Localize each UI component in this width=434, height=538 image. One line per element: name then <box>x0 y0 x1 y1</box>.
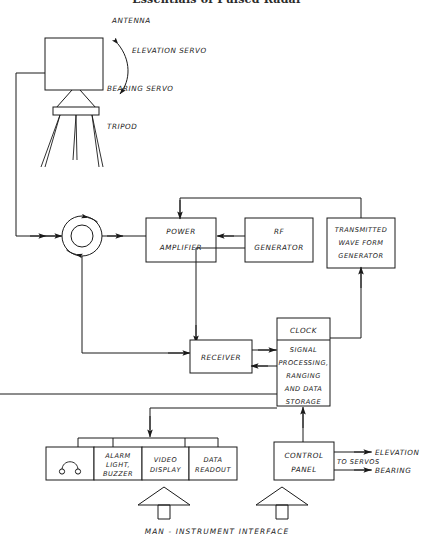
data-line2: READOUT <box>195 466 231 474</box>
link-sp-to-twfg <box>330 272 361 338</box>
cell-headphones[interactable] <box>46 447 94 480</box>
data-line1: DATA <box>203 456 222 464</box>
block-signal-processing-stack[interactable]: CLOCK SIGNAL PROCESSING, RANGING AND DAT… <box>277 318 330 406</box>
interface-caption: MAN - INSTRUMENT INTERFACE <box>145 527 290 536</box>
interface-arrow-up <box>256 487 308 519</box>
block-transmitted-wave-form-generator[interactable]: TRANSMITTED WAVE FORM GENERATOR <box>327 218 395 268</box>
label-elevation-out: ELEVATION <box>375 448 419 457</box>
sp-line2: PROCESSING, <box>278 359 328 367</box>
label-elevation-servo: ELEVATION SERVO <box>132 46 207 55</box>
power-amplifier-line1: POWER <box>166 227 195 236</box>
link-circulator-to-receiver <box>82 256 189 353</box>
block-power-amplifier[interactable]: POWER AMPLIFIER <box>146 218 216 262</box>
video-line1: VIDEO <box>154 456 177 464</box>
twfg-line3: GENERATOR <box>338 252 383 260</box>
cell-video-display[interactable] <box>142 447 189 480</box>
label-tripod: TRIPOD <box>107 122 137 131</box>
twfg-line1: TRANSMITTED <box>335 226 388 234</box>
antenna-assembly <box>41 38 128 167</box>
bearing-servo-plate <box>53 107 99 115</box>
waveguide-antenna-feed <box>16 73 61 236</box>
cell-data-readout[interactable] <box>189 447 237 480</box>
interface-arrow-down <box>138 487 190 519</box>
sp-line5: STORAGE <box>286 398 322 406</box>
radar-block-diagram: ANTENNA ELEVATION SERVO BEARING SERVO TR… <box>0 0 434 538</box>
receiver-line1: RECEIVER <box>201 353 241 362</box>
label-antenna: ANTENNA <box>111 16 151 25</box>
alarm-line2: LIGHT, <box>106 461 130 469</box>
rf-generator-line1: RF <box>274 227 285 236</box>
alarm-line1: ALARM <box>104 452 130 460</box>
rf-generator-line2: GENERATOR <box>254 243 303 252</box>
video-line2: DISPLAY <box>150 466 181 474</box>
label-bearing-servo: BEARING SERVO <box>107 84 174 93</box>
tripod-legs <box>41 115 103 167</box>
label-to-servos: TO SERVOS <box>337 458 380 466</box>
block-rf-generator[interactable]: RF GENERATOR <box>245 218 313 262</box>
antenna-yoke <box>56 90 96 108</box>
block-control-panel[interactable]: CONTROL PANEL <box>274 442 334 480</box>
twfg-line2: WAVE FORM <box>339 239 384 247</box>
display-bus-drops <box>78 438 218 447</box>
control-panel-line2: PANEL <box>291 465 317 474</box>
sp-line4: AND DATA <box>284 385 323 393</box>
sp-line3: RANGING <box>286 372 321 380</box>
diagram-page: Essentials of Pulsed Radar <box>0 0 434 538</box>
display-group: ALARM LIGHT, BUZZER VIDEO DISPLAY DATA R… <box>46 438 237 480</box>
alarm-line3: BUZZER <box>103 470 133 478</box>
circulator <box>62 216 102 256</box>
block-receiver[interactable]: RECEIVER <box>190 340 252 373</box>
link-sp-to-display-bus <box>150 408 277 430</box>
link-twfg-to-pa <box>180 198 361 218</box>
control-panel-line1: CONTROL <box>285 451 324 460</box>
sp-line1: SIGNAL <box>290 346 317 354</box>
label-bearing-out: BEARING <box>375 466 411 475</box>
clock-line1: CLOCK <box>290 326 318 335</box>
antenna-dish <box>45 38 103 90</box>
